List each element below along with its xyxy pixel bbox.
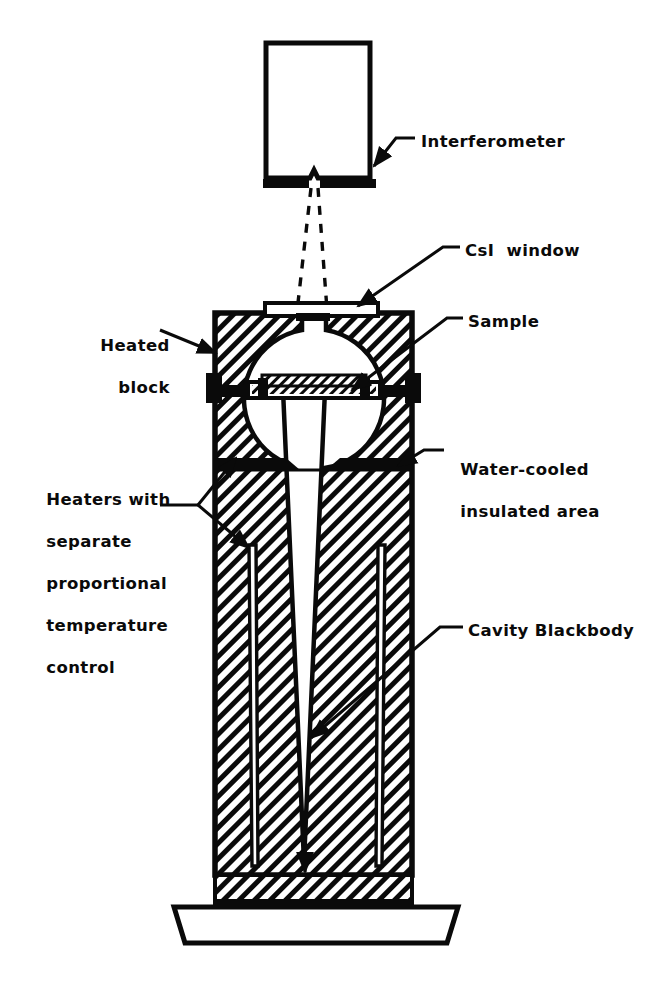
label-heated-block-line2: block xyxy=(118,377,170,398)
base-plate xyxy=(174,875,458,943)
label-heated-block-line1: Heated xyxy=(100,336,169,355)
label-heaters-line1: Heaters with xyxy=(46,490,170,509)
label-water-cooled-line1: Water-cooled xyxy=(460,460,589,479)
label-heated-block: Heated block xyxy=(88,314,170,398)
interferometer-housing xyxy=(266,43,370,178)
label-cavity-blackbody: Cavity Blackbody xyxy=(468,620,634,641)
label-water-cooled-insulated-area: Water-cooled insulated area xyxy=(448,438,600,522)
label-heaters-line4: temperature xyxy=(46,616,168,635)
label-water-cooled-line2: insulated area xyxy=(460,502,600,521)
label-heaters-line2: separate xyxy=(46,532,132,551)
label-heaters-line5: control xyxy=(46,658,115,677)
label-interferometer: Interferometer xyxy=(421,131,565,152)
label-heaters-line3: proportional xyxy=(46,574,167,593)
label-csi-window: CsI window xyxy=(465,240,580,261)
label-heaters-with-proportional-control: Heaters with separate proportional tempe… xyxy=(34,468,171,678)
label-sample: Sample xyxy=(468,311,539,332)
